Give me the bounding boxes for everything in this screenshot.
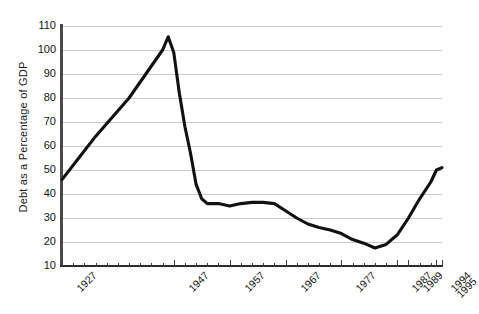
x-tick <box>286 260 287 267</box>
x-tick <box>230 260 231 267</box>
x-tick-label: 1947 <box>186 269 211 294</box>
y-tick-label: 100 <box>22 44 56 55</box>
y-tick-label: 20 <box>22 236 56 247</box>
x-tick <box>341 260 342 267</box>
gridline <box>62 98 442 99</box>
gridline <box>62 218 442 219</box>
y-axis-tick-labels: 102030405060708090100110 <box>18 26 56 266</box>
x-tick <box>174 260 175 267</box>
y-axis-spine <box>60 24 63 267</box>
gridline <box>62 74 442 75</box>
y-tick-label: 110 <box>22 20 56 31</box>
gridline <box>62 122 442 123</box>
x-tick-label: 1927 <box>74 269 99 294</box>
gridline <box>62 194 442 195</box>
y-tick-label: 90 <box>22 68 56 79</box>
x-tick <box>62 260 63 267</box>
gridline <box>62 26 442 27</box>
x-tick-label: 1977 <box>353 269 378 294</box>
gridline <box>62 50 442 51</box>
gridline <box>62 242 442 243</box>
gridline <box>62 170 442 171</box>
x-tick-label: 1967 <box>297 269 322 294</box>
x-tick <box>436 260 437 267</box>
y-tick-label: 70 <box>22 116 56 127</box>
gridline <box>62 146 442 147</box>
x-axis-ticks <box>62 259 443 267</box>
plot-area <box>62 26 442 266</box>
x-axis-tick-labels: 192719471957196719771987198919941995 <box>0 267 466 314</box>
x-tick <box>397 260 398 267</box>
x-tick-label: 1957 <box>241 269 266 294</box>
y-tick-label: 40 <box>22 188 56 199</box>
x-tick <box>442 260 443 267</box>
y-tick-label: 60 <box>22 140 56 151</box>
y-tick-label: 80 <box>22 92 56 103</box>
y-tick-label: 30 <box>22 212 56 223</box>
x-tick <box>408 260 409 267</box>
y-tick-label: 50 <box>22 164 56 175</box>
